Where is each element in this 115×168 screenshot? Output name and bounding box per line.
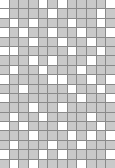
grid-cell[interactable]	[39, 141, 48, 149]
grid-cell[interactable]	[68, 38, 77, 46]
grid-cell[interactable]	[10, 0, 19, 8]
grid-cell[interactable]	[77, 19, 86, 27]
grid-cell[interactable]	[29, 85, 38, 93]
grid-cell[interactable]	[87, 131, 96, 139]
grid-cell[interactable]	[58, 150, 67, 158]
grid-cell[interactable]	[58, 9, 67, 17]
grid-cell[interactable]	[48, 9, 57, 17]
grid-cell[interactable]	[106, 141, 115, 149]
grid-cell[interactable]	[106, 19, 115, 27]
grid-cell[interactable]	[19, 160, 28, 168]
grid-cell[interactable]	[58, 131, 67, 139]
grid-cell[interactable]	[77, 0, 86, 8]
grid-cell[interactable]	[68, 113, 77, 121]
grid-cell[interactable]	[87, 141, 96, 149]
grid-cell[interactable]	[19, 0, 28, 8]
grid-cell[interactable]	[19, 150, 28, 158]
grid-cell[interactable]	[77, 122, 86, 130]
grid-cell[interactable]	[29, 9, 38, 17]
grid-cell[interactable]	[106, 47, 115, 55]
grid-cell[interactable]	[97, 150, 106, 158]
grid-cell[interactable]	[97, 113, 106, 121]
grid-cell[interactable]	[19, 94, 28, 102]
grid-cell[interactable]	[39, 150, 48, 158]
grid-cell[interactable]	[106, 103, 115, 111]
grid-cell[interactable]	[19, 103, 28, 111]
grid-cell[interactable]	[77, 56, 86, 64]
grid-cell[interactable]	[0, 160, 9, 168]
grid-cell[interactable]	[0, 113, 9, 121]
grid-cell[interactable]	[58, 113, 67, 121]
grid-cell[interactable]	[106, 160, 115, 168]
grid-cell[interactable]	[87, 94, 96, 102]
grid-cell[interactable]	[0, 103, 9, 111]
grid-cell[interactable]	[68, 85, 77, 93]
grid-cell[interactable]	[48, 28, 57, 36]
grid-cell[interactable]	[87, 160, 96, 168]
grid-cell[interactable]	[106, 56, 115, 64]
grid-cell[interactable]	[19, 141, 28, 149]
grid-cell[interactable]	[48, 141, 57, 149]
grid-cell[interactable]	[77, 85, 86, 93]
grid-cell[interactable]	[29, 19, 38, 27]
grid-cell[interactable]	[10, 56, 19, 64]
grid-cell[interactable]	[87, 56, 96, 64]
grid-cell[interactable]	[68, 103, 77, 111]
grid-cell[interactable]	[87, 66, 96, 74]
grid-cell[interactable]	[58, 75, 67, 83]
grid-cell[interactable]	[10, 150, 19, 158]
grid-cell[interactable]	[0, 85, 9, 93]
grid-cell[interactable]	[106, 75, 115, 83]
grid-cell[interactable]	[48, 0, 57, 8]
grid-cell[interactable]	[39, 85, 48, 93]
grid-cell[interactable]	[77, 141, 86, 149]
grid-cell[interactable]	[106, 9, 115, 17]
grid-cell[interactable]	[68, 75, 77, 83]
grid-cell[interactable]	[10, 75, 19, 83]
grid-cell[interactable]	[106, 28, 115, 36]
grid-cell[interactable]	[87, 0, 96, 8]
grid-cell[interactable]	[10, 131, 19, 139]
grid-cell[interactable]	[77, 103, 86, 111]
grid-cell[interactable]	[19, 47, 28, 55]
grid-cell[interactable]	[0, 0, 9, 8]
grid-cell[interactable]	[48, 66, 57, 74]
grid-cell[interactable]	[87, 9, 96, 17]
grid-cell[interactable]	[39, 9, 48, 17]
grid-cell[interactable]	[39, 113, 48, 121]
grid-cell[interactable]	[106, 122, 115, 130]
grid-cell[interactable]	[77, 94, 86, 102]
grid-cell[interactable]	[58, 85, 67, 93]
grid-cell[interactable]	[48, 113, 57, 121]
grid-cell[interactable]	[77, 160, 86, 168]
grid-cell[interactable]	[87, 122, 96, 130]
grid-cell[interactable]	[29, 160, 38, 168]
grid-cell[interactable]	[0, 75, 9, 83]
grid-cell[interactable]	[87, 38, 96, 46]
grid-cell[interactable]	[68, 141, 77, 149]
grid-cell[interactable]	[97, 56, 106, 64]
grid-cell[interactable]	[97, 85, 106, 93]
grid-cell[interactable]	[58, 56, 67, 64]
grid-cell[interactable]	[97, 94, 106, 102]
grid-cell[interactable]	[97, 47, 106, 55]
grid-cell[interactable]	[58, 122, 67, 130]
grid-cell[interactable]	[68, 47, 77, 55]
grid-cell[interactable]	[10, 28, 19, 36]
grid-cell[interactable]	[0, 47, 9, 55]
grid-cell[interactable]	[19, 56, 28, 64]
grid-cell[interactable]	[48, 160, 57, 168]
grid-cell[interactable]	[87, 85, 96, 93]
grid-cell[interactable]	[106, 150, 115, 158]
grid-cell[interactable]	[87, 113, 96, 121]
grid-cell[interactable]	[29, 0, 38, 8]
grid-cell[interactable]	[68, 150, 77, 158]
grid-cell[interactable]	[29, 47, 38, 55]
grid-cell[interactable]	[10, 38, 19, 46]
grid-cell[interactable]	[29, 122, 38, 130]
grid-cell[interactable]	[29, 141, 38, 149]
grid-cell[interactable]	[0, 141, 9, 149]
grid-cell[interactable]	[29, 113, 38, 121]
grid-cell[interactable]	[58, 28, 67, 36]
grid-cell[interactable]	[58, 66, 67, 74]
